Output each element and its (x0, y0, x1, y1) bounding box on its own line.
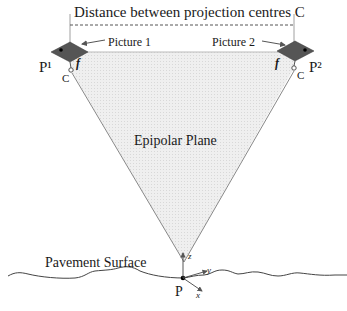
point-p-label: P (175, 285, 183, 299)
distance-label: Distance between projection centres C (74, 5, 305, 20)
centre-2-circle (292, 66, 296, 70)
camera-1-label: P¹ (39, 60, 52, 75)
centre-1-circle (69, 68, 73, 72)
y-axis-icon (183, 271, 207, 278)
focal-1-label: f (76, 57, 80, 69)
picture-2-arrow (262, 41, 285, 45)
centre-1-label: C (62, 73, 69, 84)
x-axis-label: x (196, 291, 200, 300)
pavement-surface-label: Pavement Surface (45, 256, 146, 270)
camera-1-dot (59, 48, 63, 52)
z-axis-label: z (188, 252, 192, 261)
epipolar-plane-label: Epipolar Plane (134, 134, 217, 148)
picture-2-label: Picture 2 (212, 36, 255, 48)
y-axis-label: y (207, 266, 211, 275)
centre-2-label: C (297, 70, 304, 81)
picture-1-label: Picture 1 (108, 36, 151, 48)
camera-2-dot (303, 48, 307, 52)
focal-2-label: f (275, 57, 279, 69)
camera-2-label: P² (309, 60, 322, 75)
epipolar-plane (71, 52, 294, 262)
picture-1-arrow (82, 40, 105, 44)
